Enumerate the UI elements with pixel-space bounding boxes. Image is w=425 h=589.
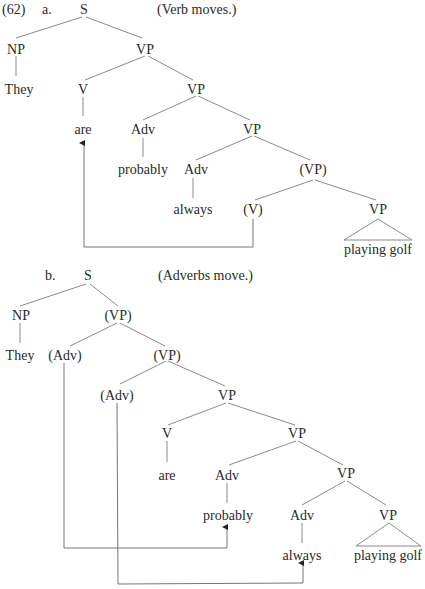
node-vp: VP — [288, 426, 306, 441]
word-are: are — [74, 122, 91, 137]
word-playing-golf: playing golf — [354, 548, 422, 563]
node-vp-trace: (VP) — [299, 162, 327, 178]
node-vp: VP — [337, 466, 355, 481]
word-they: They — [5, 82, 34, 97]
example-number: (62) — [2, 2, 26, 18]
node-vp: VP — [218, 388, 236, 403]
node-np: NP — [7, 42, 25, 57]
node-v: V — [78, 82, 88, 97]
node-adv: Adv — [184, 162, 208, 177]
node-vp: VP — [243, 122, 261, 137]
node-adv-trace: (Adv) — [48, 348, 82, 364]
node-vp: VP — [379, 508, 397, 523]
tree-b-label: b. — [45, 268, 56, 283]
node-v: V — [162, 426, 172, 441]
node-adv-trace: (Adv) — [100, 388, 134, 404]
tree-a-label: a. — [42, 2, 52, 17]
word-probably: probably — [203, 508, 253, 523]
node-adv: Adv — [215, 468, 239, 483]
node-s: S — [84, 268, 92, 283]
node-s: S — [80, 2, 88, 17]
node-vp-trace: (VP) — [153, 348, 181, 364]
node-adv: Adv — [131, 122, 155, 137]
word-always: always — [174, 202, 213, 217]
node-vp: VP — [187, 82, 205, 97]
word-playing-golf: playing golf — [344, 242, 412, 257]
word-probably: probably — [118, 162, 168, 177]
node-v-trace: (V) — [243, 202, 263, 218]
tree-b-caption: (Adverbs move.) — [158, 268, 253, 284]
syntax-tree-diagram: (62) a. (Verb moves.) S NP VP They V VP … — [0, 0, 425, 589]
node-vp-trace: (VP) — [104, 308, 132, 324]
word-always: always — [283, 548, 322, 563]
tree-b: b. (Adverbs move.) S NP (VP) They (Adv) … — [6, 268, 423, 584]
node-vp: VP — [369, 202, 387, 217]
word-are: are — [158, 468, 175, 483]
tree-a-caption: (Verb moves.) — [157, 2, 237, 18]
word-they: They — [6, 348, 35, 363]
node-vp: VP — [136, 42, 154, 57]
node-adv: Adv — [290, 508, 314, 523]
tree-a: (62) a. (Verb moves.) S NP VP They V VP … — [2, 2, 412, 257]
node-np: NP — [12, 308, 30, 323]
